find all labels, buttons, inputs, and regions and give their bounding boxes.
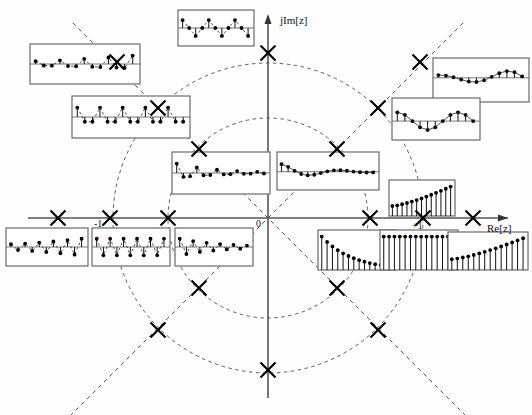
inset-sample-dot <box>483 250 487 254</box>
imaginary-axis-label: jIm[z] <box>280 14 307 26</box>
pole-marker <box>330 281 345 296</box>
inset-sample-dot <box>155 253 159 257</box>
inset-sample-dot <box>175 162 179 166</box>
real-axis-label: Re[z] <box>487 222 511 234</box>
inset-sample-dot <box>516 238 520 242</box>
inset-sample-dot <box>331 245 335 249</box>
inset-sample-dot <box>66 238 70 242</box>
inset-sample-dot <box>434 191 438 195</box>
inset-sample-dot <box>420 196 424 200</box>
inset-sample-dot <box>341 251 345 255</box>
impulse-response-upper-right-inner <box>277 152 379 190</box>
inset-sample-dot <box>477 252 481 256</box>
inset-sample-dot <box>450 257 454 261</box>
pole-marker <box>413 55 428 70</box>
impulse-response-real-negative-inner <box>175 228 253 266</box>
inset-sample-dot <box>415 198 419 202</box>
inset-sample-dot <box>472 253 476 257</box>
inset-sample-dot <box>382 235 386 239</box>
inset-sample-dot <box>405 201 409 205</box>
inset-sample-dot <box>430 235 434 239</box>
inset-sample-dot <box>98 106 102 110</box>
impulse-response-upper-left-outer <box>30 44 140 84</box>
tick-label-minus-one: -1 <box>94 218 102 229</box>
inset-sample-dot <box>149 237 153 241</box>
inset-sample-dot <box>59 251 63 255</box>
inset-sample-dot <box>102 253 106 257</box>
inset-sample-dot <box>494 246 498 250</box>
impulse-response-upper-right-mid <box>392 98 480 140</box>
inset-sample-dot <box>245 244 249 248</box>
inset-sample-dot <box>325 240 329 244</box>
inset-sample-dot <box>444 187 448 191</box>
inset-sample-dot <box>363 260 367 264</box>
inset-sample-dot <box>435 235 439 239</box>
inset-sample-dot <box>410 200 414 204</box>
inset-sample-dot <box>121 106 125 110</box>
inset-sample-dot <box>352 256 356 260</box>
origin-tick-label: 0 <box>256 218 261 229</box>
inset-sample-dot <box>400 202 404 206</box>
inset-sample-dot <box>357 258 361 262</box>
inset-sample-dot <box>461 256 465 260</box>
inset-sample-dot <box>368 261 372 265</box>
inset-sample-dot <box>336 248 340 252</box>
inset-sample-dot <box>242 172 246 176</box>
inset-sample-dot <box>505 243 509 247</box>
inset-sample-dot <box>466 254 470 258</box>
inset-sample-dot <box>143 106 147 110</box>
pole-marker <box>371 323 386 338</box>
impulse-response-upper-right-outer <box>433 58 529 102</box>
inset-sample-dot <box>510 241 514 245</box>
inset-sample-dot <box>488 248 492 252</box>
inset-frame <box>433 58 529 102</box>
impulse-response-real-positive-outer <box>448 232 528 270</box>
impulse-response-upper-left-mid <box>72 96 190 138</box>
real-axis-arrowhead <box>498 215 508 222</box>
inset-sample-dot <box>455 257 459 261</box>
inset-sample-dot <box>414 235 418 239</box>
inset-sample-dot <box>424 195 428 199</box>
impulse-response-real-positive-unit <box>380 230 458 270</box>
inset-sample-dot <box>520 75 524 79</box>
inset-sample-dot <box>398 235 402 239</box>
impulse-response-real-positive-above-axis <box>389 180 455 216</box>
inset-sample-dot <box>425 235 429 239</box>
impulse-response-imaginary-axis <box>178 10 254 46</box>
inset-sample-dot <box>115 253 119 257</box>
inset-sample-dot <box>238 247 242 251</box>
imaginary-axis-arrowhead <box>265 14 272 24</box>
inset-sample-dot <box>439 189 443 193</box>
inset-sample-dot <box>449 185 453 189</box>
inset-sample-dot <box>347 254 351 258</box>
inset-sample-dot <box>395 203 399 207</box>
tick-label-plus-one: +1 <box>412 220 423 231</box>
impulse-response-upper-left-inner <box>172 152 270 194</box>
inset-sample-dot <box>521 236 525 240</box>
inset-sample-dot <box>135 237 139 241</box>
pole-marker <box>192 281 207 296</box>
inset-sample-dot <box>320 235 324 239</box>
inset-frame <box>448 232 528 270</box>
z-plane-canvas <box>0 0 532 415</box>
inset-sample-dot <box>429 193 433 197</box>
inset-sample-dot <box>419 235 423 239</box>
inset-sample-dot <box>34 59 38 63</box>
inset-sample-dot <box>390 204 394 208</box>
inset-sample-dot <box>403 235 407 239</box>
inset-sample-dot <box>280 162 284 166</box>
inset-sample-dot <box>393 235 397 239</box>
inset-sample-dot <box>262 172 266 176</box>
pole-marker <box>151 323 166 338</box>
inset-sample-dot <box>441 235 445 239</box>
inset-sample-dot <box>51 239 55 243</box>
inset-sample-dot <box>499 245 503 249</box>
z-plane-figure: jIm[z] Re[z] 0 -1 +1 <box>0 0 532 415</box>
inset-sample-dot <box>373 262 377 266</box>
impulse-response-real-negative-unit <box>92 228 170 266</box>
pole-markers-layer <box>51 46 481 378</box>
inset-sample-dot <box>409 235 413 239</box>
pole-marker <box>371 101 386 116</box>
inset-sample-dot <box>387 235 391 239</box>
inset-sample-dot <box>166 106 170 110</box>
